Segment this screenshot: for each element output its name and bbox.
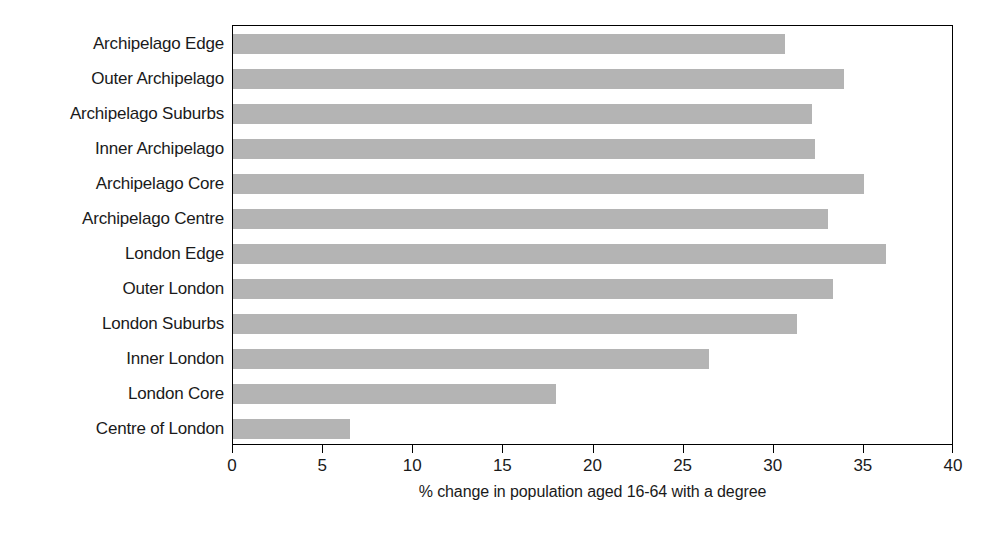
- category-label: London Core: [0, 384, 224, 404]
- bar: [233, 139, 815, 159]
- bar: [233, 104, 812, 124]
- category-label: Archipelago Edge: [0, 34, 224, 54]
- x-tick-label: 0: [227, 455, 236, 477]
- x-tick-label: 20: [583, 455, 602, 477]
- category-label: Archipelago Suburbs: [0, 104, 224, 124]
- bar: [233, 69, 844, 89]
- x-tick-mark: [773, 445, 774, 453]
- x-tick-label: 15: [493, 455, 512, 477]
- x-tick-label: 35: [853, 455, 872, 477]
- x-tick-mark: [502, 445, 503, 453]
- category-label: London Edge: [0, 244, 224, 264]
- x-tick-mark: [322, 445, 323, 453]
- bars-layer: [233, 26, 952, 444]
- bar: [233, 384, 556, 404]
- x-tick-mark: [863, 445, 864, 453]
- category-label: Outer Archipelago: [0, 69, 224, 89]
- x-tick-label: 25: [673, 455, 692, 477]
- bar: [233, 279, 833, 299]
- x-tick-label: 40: [944, 455, 963, 477]
- bar: [233, 244, 886, 264]
- plot-area: [232, 25, 953, 445]
- category-label: London Suburbs: [0, 314, 224, 334]
- x-tick-label: 10: [403, 455, 422, 477]
- bar: [233, 419, 350, 439]
- category-label: Archipelago Core: [0, 174, 224, 194]
- x-tick-mark: [683, 445, 684, 453]
- category-label: Outer London: [0, 279, 224, 299]
- x-tick-mark: [412, 445, 413, 453]
- x-axis-title: % change in population aged 16-64 with a…: [232, 482, 953, 502]
- bar: [233, 314, 797, 334]
- bar-chart: Archipelago EdgeOuter ArchipelagoArchipe…: [0, 0, 995, 540]
- x-tick-label: 5: [317, 455, 326, 477]
- bar: [233, 34, 785, 54]
- category-label: Centre of London: [0, 419, 224, 439]
- bar: [233, 209, 828, 229]
- category-label: Inner Archipelago: [0, 139, 224, 159]
- bar: [233, 174, 864, 194]
- x-tick-mark: [952, 445, 953, 453]
- category-axis: Archipelago EdgeOuter ArchipelagoArchipe…: [0, 25, 224, 445]
- x-axis-tick-labels: 0510152025303540: [232, 455, 953, 479]
- x-tick-mark: [593, 445, 594, 453]
- x-axis-ticks: [232, 445, 953, 455]
- category-label: Inner London: [0, 349, 224, 369]
- bar: [233, 349, 709, 369]
- category-label: Archipelago Centre: [0, 209, 224, 229]
- x-tick-label: 30: [763, 455, 782, 477]
- x-tick-mark: [232, 445, 233, 453]
